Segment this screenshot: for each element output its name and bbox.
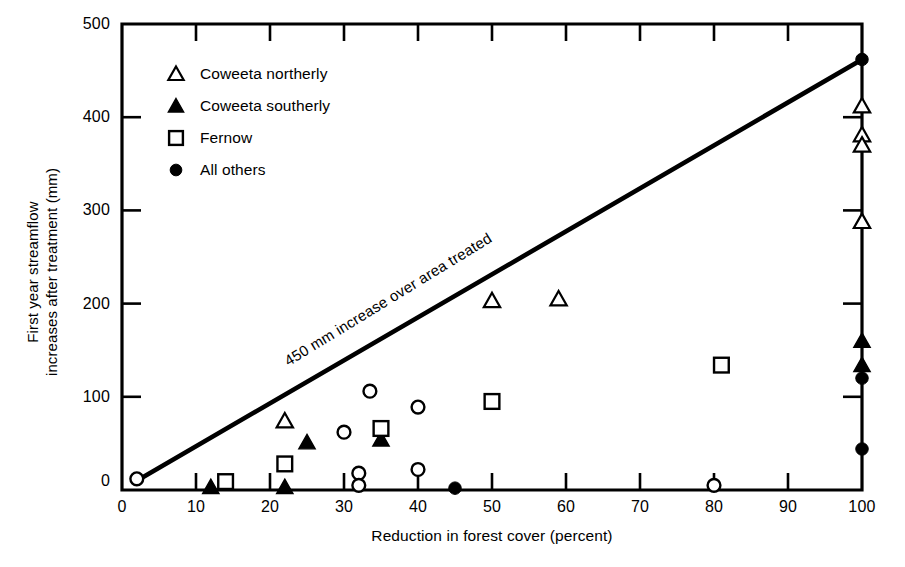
plot-canvas bbox=[0, 0, 905, 567]
data-point bbox=[449, 482, 461, 494]
legend-item-label: Coweeta northerly bbox=[200, 65, 328, 83]
legend-item-label: All others bbox=[200, 161, 266, 179]
data-point bbox=[854, 98, 870, 112]
legend-item-label: Coweeta southerly bbox=[200, 97, 330, 115]
data-point bbox=[854, 214, 870, 228]
series-fernow bbox=[218, 358, 729, 489]
data-point bbox=[856, 443, 868, 455]
data-point bbox=[708, 479, 721, 492]
data-point bbox=[412, 401, 425, 414]
data-point bbox=[485, 394, 500, 409]
data-point bbox=[218, 474, 233, 489]
data-point bbox=[338, 426, 351, 439]
data-point bbox=[412, 463, 425, 476]
series-all-others bbox=[449, 53, 868, 494]
data-point bbox=[854, 333, 870, 347]
data-point bbox=[203, 479, 219, 493]
data-point bbox=[299, 434, 315, 448]
data-point bbox=[374, 421, 389, 436]
data-point bbox=[277, 413, 293, 427]
open-triangle-icon bbox=[166, 65, 192, 83]
data-point bbox=[130, 472, 143, 485]
chart-legend: Coweeta northerlyCoweeta southerlyFernow… bbox=[166, 58, 330, 186]
data-point bbox=[277, 479, 293, 493]
open-square-icon bbox=[166, 129, 192, 147]
legend-item-coweeta-southerly: Coweeta southerly bbox=[166, 90, 330, 122]
data-point bbox=[854, 357, 870, 371]
data-point bbox=[856, 53, 868, 65]
data-point bbox=[352, 467, 365, 480]
filled-circle-icon bbox=[166, 161, 192, 179]
legend-item-fernow: Fernow bbox=[166, 122, 330, 154]
chart-figure: First year streamflow increases after tr… bbox=[0, 0, 905, 567]
data-point bbox=[364, 385, 377, 398]
data-point bbox=[352, 479, 365, 492]
data-point bbox=[714, 358, 729, 373]
legend-item-coweeta-northerly: Coweeta northerly bbox=[166, 58, 330, 90]
filled-triangle-icon bbox=[166, 97, 192, 115]
legend-item-all-others: All others bbox=[166, 154, 330, 186]
series-coweeta-northerly bbox=[277, 98, 871, 427]
data-point bbox=[277, 457, 292, 472]
data-point bbox=[856, 372, 868, 384]
data-point bbox=[484, 293, 500, 307]
data-point bbox=[550, 291, 566, 305]
legend-item-label: Fernow bbox=[200, 129, 252, 147]
